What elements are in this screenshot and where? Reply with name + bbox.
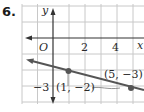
coordinate-graph: y x O 2 4 −3 (5, −3) (1, −2): [0, 0, 144, 112]
point-label-5-neg3: (5, −3): [104, 68, 143, 81]
x-tick-label-4: 4: [112, 41, 119, 54]
point-5-neg3: [128, 85, 134, 91]
x-axis-label: x: [137, 39, 144, 52]
y-tick-label-neg3: −3: [33, 81, 49, 94]
origin-label: O: [39, 41, 48, 54]
point-label-1-neg2: (1, −2): [56, 81, 95, 94]
y-axis-label: y: [41, 4, 49, 17]
point-1-neg2: [66, 68, 72, 74]
x-tick-label-2: 2: [81, 41, 88, 54]
